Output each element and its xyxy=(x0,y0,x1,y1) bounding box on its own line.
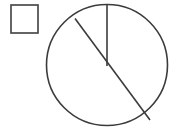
square-shape xyxy=(11,5,38,33)
geometry-drawing xyxy=(0,0,170,128)
figure-canvas xyxy=(0,0,170,128)
chord-line xyxy=(75,19,150,121)
